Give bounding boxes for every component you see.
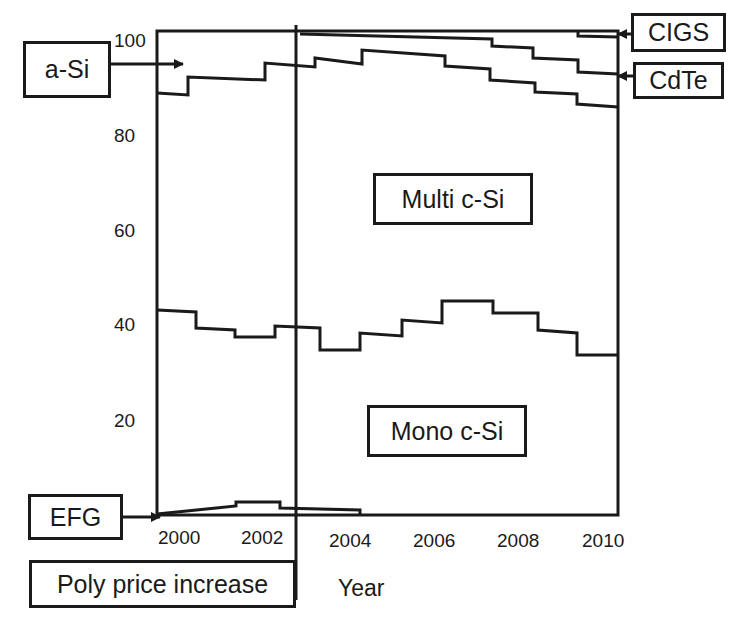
- label-efg: EFG: [28, 494, 123, 540]
- y-tick-60: 60: [114, 220, 135, 242]
- x-tick-2004: 2004: [329, 530, 371, 552]
- label-poly-price-increase: Poly price increase: [29, 560, 296, 608]
- y-tick-40: 40: [114, 314, 135, 336]
- x-tick-2006: 2006: [413, 530, 455, 552]
- y-tick-80: 80: [114, 125, 135, 147]
- label-cigs: CIGS: [631, 13, 726, 52]
- efg-boundary: [157, 502, 360, 515]
- x-tick-2008: 2008: [497, 530, 539, 552]
- x-axis-title: Year: [338, 575, 384, 602]
- label-mono-csi: Mono c-Si: [367, 405, 527, 457]
- x-tick-2000: 2000: [158, 527, 200, 549]
- mono-csi-boundary: [157, 301, 618, 355]
- y-tick-20: 20: [114, 410, 135, 432]
- label-multi-csi: Multi c-Si: [373, 173, 533, 225]
- label-cdte: CdTe: [633, 62, 724, 99]
- label-asi: a-Si: [23, 41, 111, 98]
- x-tick-2010: 2010: [582, 530, 624, 552]
- y-tick-100: 100: [114, 30, 146, 52]
- x-tick-2002: 2002: [241, 527, 283, 549]
